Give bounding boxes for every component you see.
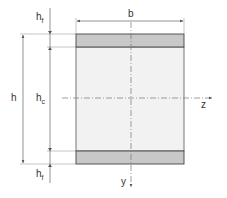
hf-bottom-label: hf <box>36 168 44 181</box>
b-label: b <box>128 8 134 19</box>
h-label: h <box>11 92 17 103</box>
sandwich-cross-section-diagram: b h hc hf hf z y <box>0 0 227 198</box>
y-axis-label: y <box>121 176 126 187</box>
hf-top-label: hf <box>36 11 44 24</box>
z-axis-label: z <box>201 99 206 110</box>
bottom-face-sheet <box>76 151 184 164</box>
core-region <box>76 47 184 151</box>
top-face-sheet <box>76 34 184 47</box>
hc-label: hc <box>36 92 46 105</box>
